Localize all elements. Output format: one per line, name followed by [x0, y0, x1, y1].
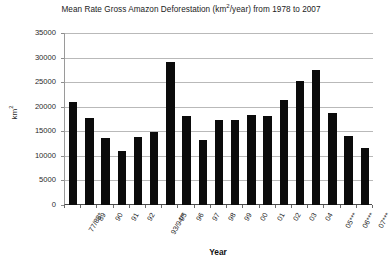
bar	[247, 115, 255, 205]
bar	[199, 140, 207, 205]
x-axis-tick-label: 00	[258, 211, 270, 222]
bar	[296, 81, 304, 205]
bar	[361, 148, 369, 205]
x-axis-tick-label: 03	[307, 211, 319, 222]
x-axis-tick-label: 04	[323, 211, 335, 222]
x-axis-tick-label: 90	[113, 211, 125, 222]
x-axis-tick-label: 98	[226, 211, 238, 222]
bar	[344, 136, 352, 205]
bar	[166, 62, 174, 205]
bar	[85, 118, 93, 205]
bar	[280, 100, 288, 205]
bar	[215, 120, 223, 205]
bar-series	[65, 33, 373, 205]
bar	[118, 151, 126, 205]
bar	[69, 102, 77, 205]
x-axis-tick-label: 02	[291, 211, 303, 222]
x-axis-tick-label: 96	[194, 211, 206, 222]
bar	[134, 137, 142, 205]
x-axis-tick-label: 91	[129, 211, 141, 222]
bar	[182, 116, 190, 205]
x-axis-tick-label: 05***	[344, 211, 360, 230]
x-axis-tick-label: 06***	[360, 211, 376, 230]
bar	[101, 138, 109, 205]
x-axis-tick-label: 99	[242, 211, 254, 222]
x-axis-title: Year	[64, 247, 372, 257]
bar	[231, 120, 239, 205]
bar	[150, 132, 158, 205]
x-axis-tick-label: 97	[210, 211, 222, 222]
x-axis-tick-label: 07***	[376, 211, 392, 230]
bar	[263, 116, 271, 205]
x-axis-tick-label: 92	[145, 211, 157, 222]
bar	[328, 113, 336, 205]
x-axis-tick-label: 01	[275, 211, 287, 222]
bar	[312, 70, 320, 205]
plot-area	[64, 33, 372, 205]
